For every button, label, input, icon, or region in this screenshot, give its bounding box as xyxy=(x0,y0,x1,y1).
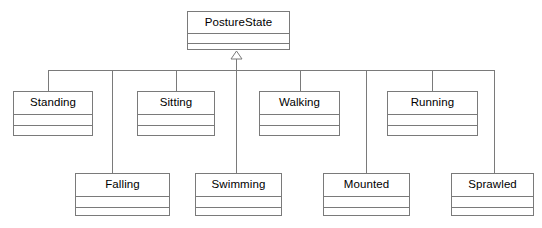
uml-operations-compartment xyxy=(196,208,281,215)
uml-operations-compartment xyxy=(76,208,169,215)
uml-class-name-falling: Falling xyxy=(76,174,169,197)
uml-class-falling[interactable]: Falling xyxy=(75,173,170,216)
uml-class-name-walking: Walking xyxy=(260,92,339,115)
uml-operations-compartment xyxy=(388,126,477,135)
generalization-arrowhead-icon xyxy=(231,51,242,59)
uml-class-name-standing: Standing xyxy=(14,92,92,115)
uml-class-name-running: Running xyxy=(388,92,477,115)
uml-class-name-sprawled: Sprawled xyxy=(452,174,533,197)
uml-class-name-mounted: Mounted xyxy=(324,174,409,197)
uml-attributes-compartment xyxy=(138,115,214,126)
uml-class-swimming[interactable]: Swimming xyxy=(195,173,282,216)
uml-operations-compartment xyxy=(188,44,289,49)
uml-class-diagram: PostureState StandingSittingWalkingRunni… xyxy=(0,0,542,228)
uml-class-walking[interactable]: Walking xyxy=(259,91,340,136)
uml-operations-compartment xyxy=(138,126,214,135)
uml-attributes-compartment xyxy=(14,115,92,126)
uml-attributes-compartment xyxy=(188,34,289,44)
uml-attributes-compartment xyxy=(452,197,533,208)
uml-attributes-compartment xyxy=(76,197,169,208)
uml-attributes-compartment xyxy=(196,197,281,208)
uml-class-running[interactable]: Running xyxy=(387,91,478,136)
uml-attributes-compartment xyxy=(260,115,339,126)
uml-operations-compartment xyxy=(324,208,409,215)
uml-class-name-posturestate: PostureState xyxy=(188,12,289,34)
uml-operations-compartment xyxy=(260,126,339,135)
uml-class-name-swimming: Swimming xyxy=(196,174,281,197)
uml-class-posturestate[interactable]: PostureState xyxy=(187,11,290,50)
uml-class-mounted[interactable]: Mounted xyxy=(323,173,410,216)
uml-attributes-compartment xyxy=(388,115,477,126)
uml-class-name-sitting: Sitting xyxy=(138,92,214,115)
uml-operations-compartment xyxy=(14,126,92,135)
uml-class-standing[interactable]: Standing xyxy=(13,91,93,136)
uml-attributes-compartment xyxy=(324,197,409,208)
uml-operations-compartment xyxy=(452,208,533,215)
uml-class-sprawled[interactable]: Sprawled xyxy=(451,173,534,216)
uml-class-sitting[interactable]: Sitting xyxy=(137,91,215,136)
